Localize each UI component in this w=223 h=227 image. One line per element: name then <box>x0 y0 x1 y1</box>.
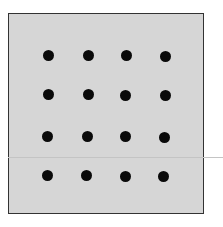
dot-grid-panel <box>8 13 204 214</box>
dot <box>42 170 53 181</box>
dot <box>160 90 171 101</box>
dot <box>158 171 169 182</box>
dot <box>120 90 131 101</box>
dot <box>81 170 92 181</box>
dot <box>43 89 54 100</box>
dot <box>83 50 94 61</box>
dot <box>42 131 53 142</box>
dot <box>159 132 170 143</box>
dot <box>43 50 54 61</box>
dot <box>120 131 131 142</box>
dot <box>82 131 93 142</box>
dot <box>120 171 131 182</box>
dot <box>160 51 171 62</box>
dot <box>83 89 94 100</box>
faint-horizontal-line <box>8 157 223 158</box>
dot <box>121 50 132 61</box>
